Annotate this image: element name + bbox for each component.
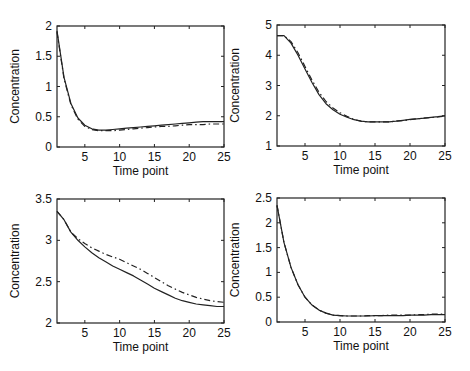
panel-top-left: 51015202500.511.52Time pointConcentratio… <box>8 19 231 178</box>
y-tick-label: 3 <box>265 79 272 93</box>
x-tick-label: 20 <box>183 150 197 164</box>
x-tick-label: 25 <box>217 150 231 164</box>
y-tick-label: 1.5 <box>255 241 272 255</box>
y-tick-label: 2.5 <box>35 275 52 289</box>
x-tick-label: 10 <box>113 150 127 164</box>
y-tick-label: 1 <box>265 139 272 153</box>
y-tick-label: 2 <box>265 216 272 230</box>
x-tick-label: 15 <box>368 325 382 339</box>
x-tick-label: 15 <box>368 149 382 163</box>
x-tick-label: 15 <box>148 150 162 164</box>
y-tick-label: 3.5 <box>35 192 52 206</box>
panel-bottom-right: 51015202500.511.522.5Time pointConcentra… <box>228 191 452 353</box>
y-axis-label: Concentration <box>228 48 242 123</box>
axes-box <box>277 198 445 322</box>
x-tick-label: 10 <box>333 325 347 339</box>
x-tick-label: 15 <box>148 326 162 340</box>
x-tick-label: 20 <box>403 149 417 163</box>
x-tick-label: 10 <box>113 326 127 340</box>
y-axis-label: Concentration <box>8 49 22 124</box>
y-axis-label: Concentration <box>228 223 242 298</box>
x-tick-label: 5 <box>302 325 309 339</box>
x-tick-label: 25 <box>438 149 452 163</box>
y-tick-label: 5 <box>265 18 272 32</box>
y-tick-label: 4 <box>265 48 272 62</box>
y-tick-label: 2 <box>45 19 52 33</box>
panel-top-right: 51015202512345Time pointConcentration <box>228 18 452 177</box>
figure: 51015202500.511.52Time pointConcentratio… <box>0 0 470 371</box>
series-dash-dot <box>277 36 445 122</box>
y-tick-label: 0.5 <box>35 110 52 124</box>
series-dash-dot <box>57 32 224 131</box>
x-axis-label: Time point <box>113 164 169 178</box>
x-tick-label: 20 <box>183 326 197 340</box>
series-solid <box>277 36 445 122</box>
x-tick-label: 5 <box>81 326 88 340</box>
x-tick-label: 5 <box>81 150 88 164</box>
series-solid <box>277 205 445 316</box>
y-tick-label: 0 <box>265 315 272 329</box>
axes-box <box>57 26 224 147</box>
y-tick-label: 2 <box>265 109 272 123</box>
x-tick-label: 10 <box>333 149 347 163</box>
y-tick-label: 1.5 <box>35 49 52 63</box>
series-dash-dot <box>57 211 224 302</box>
x-tick-label: 25 <box>217 326 231 340</box>
x-tick-label: 25 <box>438 325 452 339</box>
x-tick-label: 20 <box>403 325 417 339</box>
y-tick-label: 0 <box>45 140 52 154</box>
y-tick-label: 2 <box>45 316 52 330</box>
y-tick-label: 1 <box>45 80 52 94</box>
y-tick-label: 2.5 <box>255 191 272 205</box>
axes-box <box>277 25 445 146</box>
y-axis-label: Concentration <box>8 224 22 299</box>
x-tick-label: 5 <box>302 149 309 163</box>
series-solid <box>57 31 224 130</box>
y-tick-label: 3 <box>45 233 52 247</box>
x-axis-label: Time point <box>333 339 389 353</box>
x-axis-label: Time point <box>333 163 389 177</box>
y-tick-label: 0.5 <box>255 290 272 304</box>
x-axis-label: Time point <box>113 340 169 354</box>
y-tick-label: 1 <box>265 265 272 279</box>
series-solid <box>57 211 224 306</box>
panel-bottom-left: 51015202522.533.5Time pointConcentration <box>8 192 231 354</box>
series-dash-dot <box>277 205 445 316</box>
